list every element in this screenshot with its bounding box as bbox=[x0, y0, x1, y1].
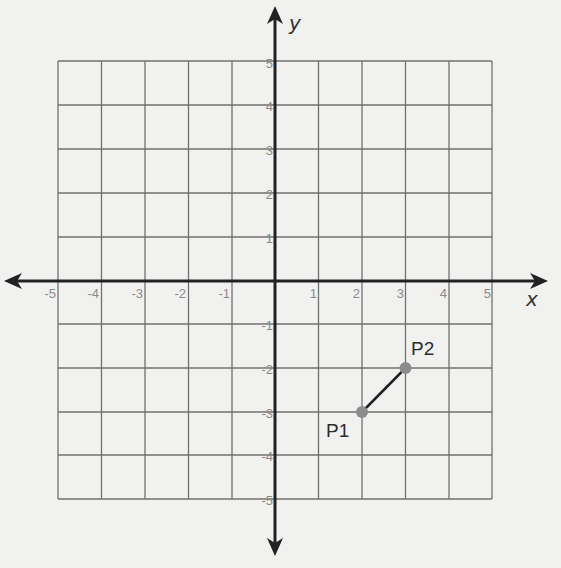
svg-text:-2: -2 bbox=[174, 286, 186, 301]
coordinate-plane: x y -5 -4 -3 -2 -1 1 2 3 4 5 5 4 3 2 1 -… bbox=[0, 0, 561, 568]
svg-text:-3: -3 bbox=[131, 286, 143, 301]
svg-text:2: 2 bbox=[266, 187, 273, 202]
x-axis-label: x bbox=[525, 287, 538, 311]
svg-text:3: 3 bbox=[397, 286, 404, 301]
svg-text:-4: -4 bbox=[261, 449, 273, 464]
svg-text:-4: -4 bbox=[87, 286, 99, 301]
point-p2 bbox=[400, 362, 412, 374]
segment-p1-p2 bbox=[362, 368, 406, 412]
svg-text:-2: -2 bbox=[261, 362, 273, 377]
svg-text:5: 5 bbox=[266, 56, 273, 71]
axes bbox=[14, 16, 540, 545]
svg-text:-1: -1 bbox=[261, 318, 273, 333]
svg-text:1: 1 bbox=[310, 286, 317, 301]
svg-text:1: 1 bbox=[266, 231, 273, 246]
point-p1-label: P1 bbox=[326, 420, 349, 441]
point-p1 bbox=[356, 406, 368, 418]
svg-text:3: 3 bbox=[266, 143, 273, 158]
svg-text:-5: -5 bbox=[261, 493, 273, 508]
svg-text:-3: -3 bbox=[261, 406, 273, 421]
svg-text:4: 4 bbox=[440, 286, 447, 301]
y-axis-label: y bbox=[288, 11, 302, 35]
svg-text:-5: -5 bbox=[44, 286, 56, 301]
svg-text:5: 5 bbox=[484, 286, 491, 301]
svg-text:-1: -1 bbox=[218, 286, 230, 301]
svg-text:4: 4 bbox=[266, 99, 273, 114]
point-p2-label: P2 bbox=[411, 338, 434, 359]
x-tick-labels: -5 -4 -3 -2 -1 1 2 3 4 5 bbox=[44, 286, 491, 301]
svg-text:2: 2 bbox=[353, 286, 360, 301]
